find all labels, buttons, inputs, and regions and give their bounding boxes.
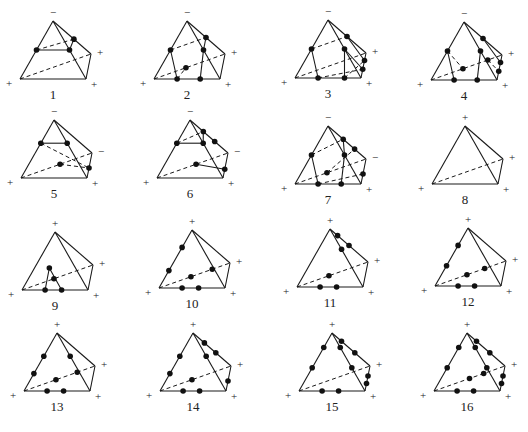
intersection-dot — [166, 268, 172, 274]
hidden-edge-DB — [297, 262, 368, 287]
tetrahedron-case-3: −+++3 — [281, 5, 378, 101]
case-label: 5 — [51, 186, 58, 201]
intersection-dot — [342, 152, 348, 158]
hidden-cut-edge — [327, 149, 355, 173]
intersection-dot — [197, 388, 203, 394]
edge-BC — [220, 54, 225, 79]
tetrahedron-case-14: ++++14 — [146, 318, 243, 414]
vertex-sign-B: + — [99, 257, 105, 269]
case-label: 13 — [51, 399, 64, 414]
intersection-dot — [174, 140, 180, 146]
intersection-dot — [360, 66, 366, 72]
intersection-dot — [196, 285, 202, 291]
vertex-sign-B: + — [512, 253, 518, 265]
vertex-sign-C: + — [368, 286, 374, 298]
intersection-dot — [455, 243, 461, 249]
edge-AB — [57, 333, 95, 366]
case-label: 2 — [184, 87, 191, 102]
intersection-dot — [474, 77, 480, 83]
vertex-sign-C: + — [370, 390, 376, 402]
intersection-dot — [51, 276, 57, 282]
cut-edge — [171, 50, 178, 79]
tetrahedron-case-6: −−++6 — [143, 105, 240, 201]
tetrahedron-case-13: ++++13 — [10, 318, 107, 414]
intersection-dot — [472, 283, 478, 289]
case-label: 3 — [325, 86, 332, 101]
intersection-dot — [212, 139, 218, 145]
hidden-cut-edge — [171, 38, 207, 51]
cut-edge — [312, 155, 319, 184]
intersection-dot — [498, 60, 504, 66]
vertex-sign-B: + — [376, 358, 382, 370]
intersection-dot — [168, 47, 174, 53]
intersection-dot — [471, 388, 477, 394]
intersection-dot — [86, 165, 92, 171]
vertex-sign-D: + — [143, 176, 149, 188]
intersection-dot — [500, 373, 506, 379]
vertex-sign-A: − — [325, 5, 331, 17]
intersection-dot — [496, 68, 502, 74]
edge-BC — [90, 366, 95, 391]
hidden-edge-DB — [20, 54, 91, 79]
edge-AC — [190, 120, 223, 178]
vertex-sign-A: + — [52, 217, 58, 229]
tetrahedron-case-5: −−++5 — [7, 105, 104, 201]
vertex-sign-B: − — [98, 145, 104, 157]
vertex-sign-A: + — [54, 318, 60, 330]
edge-AD — [434, 333, 467, 391]
case-label: 15 — [326, 399, 339, 414]
intersection-dot — [44, 388, 50, 394]
vertex-sign-C: + — [506, 285, 512, 297]
intersection-dot — [41, 353, 47, 359]
edge-AC — [55, 232, 88, 290]
intersection-dot — [167, 371, 173, 377]
intersection-dot — [360, 171, 366, 177]
hidden-edge-DB — [295, 53, 366, 78]
tetrahedron-case-1: −+++1 — [6, 6, 103, 102]
edge-AB — [467, 333, 505, 366]
intersection-dot — [324, 170, 330, 176]
vertex-sign-C: + — [228, 177, 234, 189]
intersection-dot — [197, 76, 203, 82]
edge-AD — [160, 333, 193, 391]
case-label: 14 — [187, 399, 201, 414]
vertex-sign-C: + — [225, 78, 231, 90]
tetrahedron-case-2: −+++2 — [140, 6, 237, 102]
intersection-dot — [365, 373, 371, 379]
case-label: 11 — [324, 295, 337, 310]
vertex-sign-C: + — [231, 390, 237, 402]
vertex-sign-B: − — [234, 145, 240, 157]
intersection-dot — [71, 36, 77, 42]
edge-AD — [299, 333, 332, 391]
edge-BC — [223, 153, 228, 178]
intersection-dot — [349, 365, 355, 371]
hidden-edge-DB — [160, 366, 231, 391]
cut-edge — [312, 49, 319, 78]
intersection-dot — [47, 265, 53, 271]
edge-AD — [435, 228, 468, 286]
intersection-dot — [445, 48, 451, 54]
vertex-sign-D: + — [8, 288, 14, 300]
intersection-dot — [317, 284, 323, 290]
intersection-dot — [225, 378, 231, 384]
intersection-dot — [179, 285, 185, 291]
tetrahedron-case-4: −+++4 — [417, 7, 514, 103]
intersection-dot — [454, 388, 460, 394]
intersection-dot — [222, 166, 228, 172]
hidden-edge-DB — [157, 153, 228, 178]
intersection-dot — [342, 46, 348, 52]
intersection-dot — [179, 245, 185, 251]
vertex-sign-B: + — [511, 358, 517, 370]
hidden-cut-edge — [41, 143, 89, 168]
case-label: 4 — [461, 88, 468, 103]
intersection-dot — [61, 388, 67, 394]
vertex-sign-C: + — [366, 183, 372, 195]
vertex-sign-A: + — [465, 213, 471, 225]
vertex-sign-D: + — [281, 76, 287, 88]
tetrahedron-case-10: ++++10 — [145, 215, 242, 311]
intersection-dot — [444, 365, 450, 371]
intersection-dot — [478, 48, 484, 54]
vertex-sign-C: + — [503, 183, 509, 195]
vertex-sign-D: + — [140, 77, 146, 89]
hidden-edge-DB — [21, 153, 92, 178]
